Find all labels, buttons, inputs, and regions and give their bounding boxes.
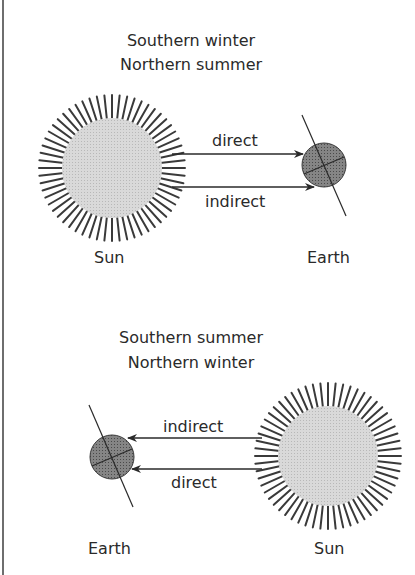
sun-bottom xyxy=(255,383,401,529)
panel-top-title-line2: Northern summer xyxy=(71,57,311,73)
panel-top-title-line1: Southern winter xyxy=(71,33,311,49)
panel-bottom-title-line2: Northern winter xyxy=(71,355,311,371)
direct-label-top: direct xyxy=(212,133,258,149)
sun-top xyxy=(39,95,185,241)
diagram-frame: Southern winter Northern summer direct i… xyxy=(0,0,415,575)
earth-label-top: Earth xyxy=(307,250,350,266)
sun-label-bottom: Sun xyxy=(314,541,344,557)
indirect-label-bottom: indirect xyxy=(163,419,223,435)
sun-label-top: Sun xyxy=(94,250,124,266)
earth-top xyxy=(302,115,346,216)
earth-bottom xyxy=(89,405,134,507)
earth-label-bottom: Earth xyxy=(88,541,131,557)
direct-label-bottom: direct xyxy=(171,475,217,491)
indirect-label-top: indirect xyxy=(205,194,265,210)
panel-bottom-title-line1: Southern summer xyxy=(71,330,311,346)
